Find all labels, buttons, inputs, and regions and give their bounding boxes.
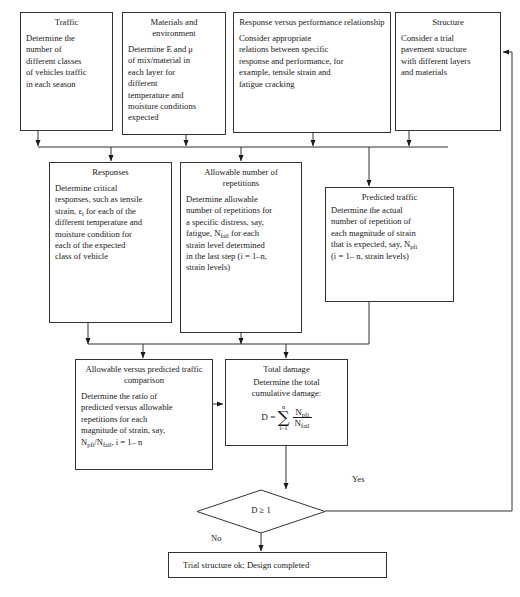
denominator-subscript: fail <box>301 422 310 429</box>
node-structure-title: Structure <box>401 17 495 28</box>
fraction-numerator: Npfi <box>293 407 312 418</box>
node-comparison-title: Allowable versus predicted traffic compa… <box>81 364 207 386</box>
damage-formula: D =n∑i–1NpfiNfail <box>231 404 342 431</box>
node-allowable-repetitions[interactable]: Allowable number of repetitions Determin… <box>180 162 302 333</box>
sigma-glyph: ∑ <box>277 410 289 425</box>
node-traffic-body: Determine the number of different classe… <box>26 33 107 90</box>
node-comparison-sub1: pfi <box>87 441 94 448</box>
node-predicted-body-pre: Determine the actual number of repetitio… <box>331 205 416 249</box>
formula-fraction: NpfiNfail <box>293 407 312 428</box>
numerator-subscript: pfi <box>302 411 309 418</box>
decision-label: D ≥ 1 <box>196 505 326 515</box>
node-responses-body-sub: t <box>82 210 84 217</box>
node-responses[interactable]: Responses Determine critical responses, … <box>49 162 172 323</box>
node-final-label: Trial structure ok; Design completed <box>169 553 386 571</box>
node-comparison-sub2: fail <box>103 441 112 448</box>
node-response-performance[interactable]: Response versus performance relationship… <box>233 12 391 133</box>
node-predicted-body-sub: pfi <box>410 243 417 250</box>
node-predicted-title: Predicted traffic <box>331 192 448 203</box>
edge-label-yes: Yes <box>352 474 365 484</box>
node-structure[interactable]: Structure Consider a trial pavement stru… <box>395 12 501 131</box>
node-allowable-body-sub: fail <box>220 232 229 239</box>
node-allowable-title: Allowable number of repetitions <box>186 167 296 189</box>
node-predicted-traffic[interactable]: Predicted traffic Determine the actual n… <box>325 187 454 302</box>
node-total-damage[interactable]: Total damage Determine the total cumulat… <box>225 359 348 446</box>
flowchart-canvas: Traffic Determine the number of differen… <box>0 0 520 597</box>
node-response-body: Consider appropriate relations between s… <box>239 33 385 90</box>
node-traffic[interactable]: Traffic Determine the number of differen… <box>20 12 113 131</box>
node-predicted-body: Determine the actual number of repetitio… <box>331 205 448 262</box>
node-responses-title: Responses <box>55 167 166 178</box>
fraction-denominator: Nfail <box>293 418 312 428</box>
node-response-title: Response versus performance relationship <box>239 17 385 28</box>
node-damage-title: Total damage <box>231 364 342 375</box>
node-allowable-body: Determine allowable number of repetition… <box>186 194 296 274</box>
node-comparison-body-post: , i = 1– n <box>111 437 142 447</box>
edge-label-no: No <box>211 533 222 543</box>
decision-node[interactable]: D ≥ 1 <box>196 489 326 534</box>
numerator-symbol: N <box>295 407 302 417</box>
node-comparison-body: Determine the ratio of predicted versus … <box>81 391 207 448</box>
summation-symbol: n∑i–1 <box>277 404 289 431</box>
node-comparison[interactable]: Allowable versus predicted traffic compa… <box>75 359 213 470</box>
node-materials-title: Materials and environment <box>128 17 220 39</box>
node-predicted-body-post: (i = 1– n, strain levels) <box>331 251 409 261</box>
formula-lhs: D = <box>261 412 275 422</box>
node-materials-body: Determine E and μ of mix/material in eac… <box>128 44 220 124</box>
node-materials-environment[interactable]: Materials and environment Determine E an… <box>122 12 226 135</box>
node-traffic-title: Traffic <box>26 17 107 28</box>
node-responses-body: Determine critical responses, such as te… <box>55 183 166 263</box>
node-damage-body: Determine the total cumulative damage: <box>231 377 342 400</box>
node-structure-body: Consider a trial pavement structure with… <box>401 33 495 79</box>
node-final-result[interactable]: Trial structure ok; Design completed <box>168 552 387 578</box>
node-comparison-body-mid: /N <box>94 437 103 447</box>
